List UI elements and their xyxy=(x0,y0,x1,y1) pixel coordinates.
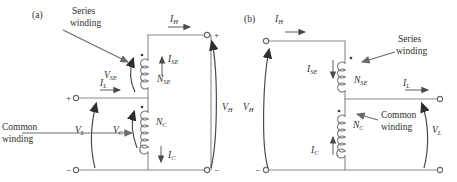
common-winding-label-b-line1: Common xyxy=(381,110,417,120)
terminal-a-low-top xyxy=(73,95,78,100)
terminal-a-low-bottom xyxy=(73,167,78,172)
terminal-b-high-bottom xyxy=(263,167,268,172)
label-nse-a: NSE xyxy=(156,74,171,85)
label-ise-b: ISE xyxy=(306,64,317,75)
label-nc-a: NC xyxy=(155,117,167,128)
sign-b-left-bottom: − xyxy=(255,165,260,175)
figure-canvas: + − + − − (a) Series winding Common wind… xyxy=(0,0,457,182)
label-nc-b: NC xyxy=(352,120,364,131)
label-vh-b: VH xyxy=(243,102,254,113)
leader-lines xyxy=(22,30,395,133)
panel-b-circuit xyxy=(266,41,440,170)
leader-series-a xyxy=(63,30,128,62)
series-coil-a xyxy=(141,59,148,89)
common-coil-a xyxy=(140,111,148,154)
label-nse-b: NSE xyxy=(353,75,368,86)
common-winding-label-a-line1: Common xyxy=(2,122,38,132)
terminal-b-high-top xyxy=(263,38,268,43)
dot-common-a xyxy=(141,106,144,109)
common-winding-label-a-line2: winding xyxy=(2,134,33,144)
label-ise-a: ISE xyxy=(167,54,178,65)
arc-vc-a xyxy=(132,112,137,148)
label-vse-a: VSE xyxy=(104,70,117,81)
leader-common-b xyxy=(357,114,378,120)
label-ic-b: IC xyxy=(310,145,319,156)
panel-a-text: (a) Series winding Common winding IH ISE… xyxy=(2,6,233,161)
series-coil-b xyxy=(338,62,345,92)
dot-series-a xyxy=(141,54,144,57)
sign-a-left-bottom: − xyxy=(66,165,71,175)
series-winding-label-b-line1: Series xyxy=(398,34,422,44)
series-winding-label-b-line2: winding xyxy=(396,46,427,56)
series-winding-label-a-line1: Series xyxy=(72,6,96,16)
series-winding-label-a-line2: winding xyxy=(70,18,101,28)
dot-series-b xyxy=(350,57,353,60)
panel-b-tag: (b) xyxy=(244,14,255,25)
label-ic-a: IC xyxy=(167,150,176,161)
terminal-a-high-top xyxy=(204,32,209,37)
arc-vl-b xyxy=(422,104,428,168)
label-ih-b: IH xyxy=(274,14,283,25)
common-coil-b xyxy=(337,115,345,158)
common-winding-label-b-line2: winding xyxy=(381,122,412,132)
label-vl-a: VL xyxy=(75,125,85,136)
terminal-a-high-bottom xyxy=(204,167,209,172)
label-vh-a: VH xyxy=(222,102,233,113)
arc-vl-a xyxy=(92,104,96,168)
dot-common-b xyxy=(338,110,341,113)
terminals xyxy=(73,32,442,172)
label-ih-a: IH xyxy=(169,14,178,25)
sign-a-right-top: + xyxy=(214,30,219,40)
arc-vh-a xyxy=(211,42,216,168)
leader-series-b xyxy=(362,52,395,62)
label-il-b: IL xyxy=(402,78,410,89)
terminal-b-low-bottom xyxy=(437,167,442,172)
sign-a-right-bottom: − xyxy=(214,165,219,175)
arc-vh-b xyxy=(264,50,269,168)
panel-a-circuit xyxy=(79,35,211,170)
label-vl-b: VL xyxy=(432,125,442,136)
sign-a-left-top: + xyxy=(66,93,71,103)
polarity-signs: + − + − − xyxy=(66,30,260,175)
arc-vse-a xyxy=(131,59,135,92)
label-vc-a: VC xyxy=(113,125,124,136)
terminal-b-low-top xyxy=(437,96,442,101)
panel-a-tag: (a) xyxy=(32,10,43,21)
